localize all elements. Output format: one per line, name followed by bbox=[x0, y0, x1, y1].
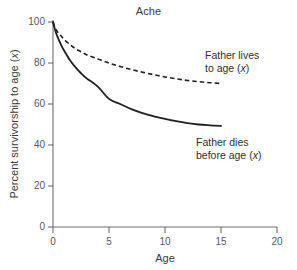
annotation-father-dies: Father dies before age (x) bbox=[196, 136, 261, 161]
annotation-father-lives-line1: Father lives bbox=[205, 49, 259, 61]
caption-strip bbox=[0, 262, 297, 270]
y-tick-label-100: 100 bbox=[28, 16, 45, 27]
x-axis-ticks bbox=[53, 227, 277, 233]
y-axis-tick-labels: 0 20 40 60 80 100 bbox=[28, 16, 45, 232]
y-tick-label-40: 40 bbox=[34, 139, 46, 150]
series-line-father-dies bbox=[53, 22, 221, 126]
survivorship-chart: 0 20 40 60 80 100 0 5 10 15 20 Age Perce… bbox=[0, 0, 297, 270]
y-axis-label: Percent survivorship to age (x) bbox=[8, 49, 20, 198]
annotation-father-lives-line2: to age (x) bbox=[205, 62, 249, 74]
y-tick-label-0: 0 bbox=[39, 221, 45, 232]
y-tick-label-80: 80 bbox=[34, 57, 46, 68]
y-tick-label-20: 20 bbox=[34, 180, 46, 191]
annotation-father-dies-suffix: ) bbox=[258, 149, 262, 161]
y-tick-label-60: 60 bbox=[34, 98, 46, 109]
series-line-father-lives bbox=[53, 22, 221, 84]
x-axis-tick-labels: 0 5 10 15 20 bbox=[50, 236, 283, 247]
annotation-father-lives-suffix: ) bbox=[246, 62, 250, 74]
annotation-father-lives: Father lives to age (x) bbox=[205, 49, 259, 74]
annotation-father-dies-prefix: before age ( bbox=[196, 149, 253, 161]
y-axis-label-prefix: Percent survivorship to age ( bbox=[8, 58, 20, 198]
x-tick-label-0: 0 bbox=[50, 236, 56, 247]
figure-container: Ache 0 20 40 60 80 100 bbox=[0, 0, 297, 270]
y-axis-label-suffix: ) bbox=[8, 49, 20, 53]
annotation-father-dies-line1: Father dies bbox=[196, 136, 249, 148]
x-tick-label-15: 15 bbox=[215, 236, 227, 247]
annotation-father-dies-line2: before age (x) bbox=[196, 149, 261, 161]
x-tick-label-5: 5 bbox=[106, 236, 112, 247]
x-tick-label-10: 10 bbox=[159, 236, 171, 247]
annotation-father-lives-prefix: to age ( bbox=[205, 62, 241, 74]
x-tick-label-20: 20 bbox=[271, 236, 283, 247]
y-axis-ticks bbox=[48, 22, 53, 227]
